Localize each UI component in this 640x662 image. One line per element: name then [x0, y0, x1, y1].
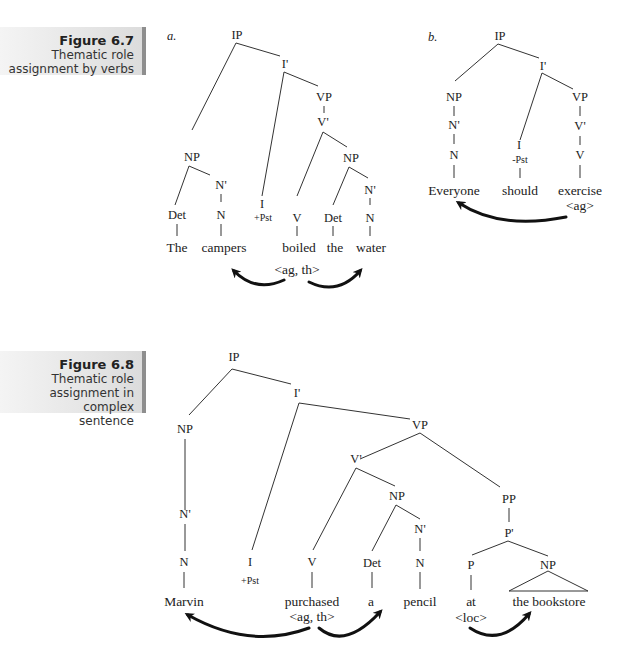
node-ip: IP: [231, 28, 242, 42]
node-nbar-obj: N': [364, 183, 375, 197]
word: water: [356, 240, 386, 255]
node-ibar: I': [282, 57, 288, 71]
tree-6-7b: b. IP I' NP N' N I -Pst VP V' V Everyone…: [428, 29, 602, 221]
node-ibar: I': [294, 386, 300, 400]
node-i: I: [260, 197, 264, 211]
word: Marvin: [164, 594, 204, 609]
node-np: NP: [446, 90, 462, 104]
theta-grid: <ag, th>: [274, 262, 319, 277]
tree-6-7a: a. IP I' VP V' NP N' N Det V I +Pst NP N…: [167, 28, 387, 287]
theta-grid-verb: <ag, th>: [289, 609, 334, 624]
word: the bookstore: [512, 594, 585, 609]
node-ibar: I': [540, 59, 546, 73]
node-vbar: V': [350, 452, 361, 466]
node-ip: IP: [228, 350, 239, 364]
word: purchased: [285, 594, 340, 609]
node-np-obj: NP: [343, 151, 359, 165]
node-det-subj: Det: [168, 208, 187, 222]
node-v: V: [292, 211, 301, 225]
node-nbar-obj: N': [414, 522, 425, 536]
node-np-pp: NP: [540, 558, 556, 572]
i-feature: -Pst: [512, 154, 528, 165]
word: boiled: [282, 240, 316, 255]
node-np-obj: NP: [389, 489, 405, 503]
syntax-trees: a. IP I' VP V' NP N' N Det V I +Pst NP N…: [0, 0, 640, 662]
node-pp: PP: [502, 492, 516, 506]
word: at: [466, 594, 476, 609]
node-nbar-subj: N': [215, 178, 226, 192]
node-n-subj: N: [216, 208, 225, 222]
node-v: V: [307, 555, 316, 569]
theta-grid: <ag>: [566, 198, 594, 213]
tree-6-8: IP I' NP N' N I +Pst VP V' NP N' N Det V…: [164, 350, 588, 636]
node-n: N: [449, 148, 458, 162]
node-p: P: [468, 558, 475, 572]
triangle-icon: [509, 571, 588, 591]
node-det: Det: [363, 556, 382, 570]
node-v: V: [575, 148, 584, 162]
theta-grid-prep: <loc>: [455, 610, 487, 625]
node-vp: VP: [572, 90, 588, 104]
node-det-obj: Det: [324, 211, 343, 225]
node-nbar: N': [448, 118, 459, 132]
word: campers: [202, 240, 247, 255]
word: Everyone: [428, 183, 480, 198]
word: a: [368, 594, 374, 609]
node-np-subj: NP: [177, 422, 193, 436]
word: the: [327, 240, 344, 255]
word: should: [502, 183, 538, 198]
i-feature: +Pst: [241, 575, 259, 586]
word: The: [167, 240, 188, 255]
node-vp: VP: [316, 90, 332, 104]
panel-label: a.: [167, 29, 176, 43]
node-i: I: [517, 138, 521, 152]
word: pencil: [404, 594, 437, 609]
node-vp: VP: [412, 418, 428, 432]
theta-assignment-arrow: [459, 203, 566, 221]
i-feature: +Pst: [254, 212, 272, 223]
node-vbar: V': [317, 115, 328, 129]
panel-label: b.: [428, 30, 437, 44]
word: exercise: [558, 183, 602, 198]
node-np-subj: NP: [184, 150, 200, 164]
node-nbar-subj: N': [179, 507, 190, 521]
node-n-obj: N: [415, 556, 424, 570]
node-n-subj: N: [179, 555, 188, 569]
node-ip: IP: [494, 29, 505, 43]
node-n-obj: N: [365, 211, 374, 225]
node-vbar: V': [574, 119, 585, 133]
node-i: I: [248, 555, 252, 569]
node-pbar: P': [504, 526, 513, 540]
